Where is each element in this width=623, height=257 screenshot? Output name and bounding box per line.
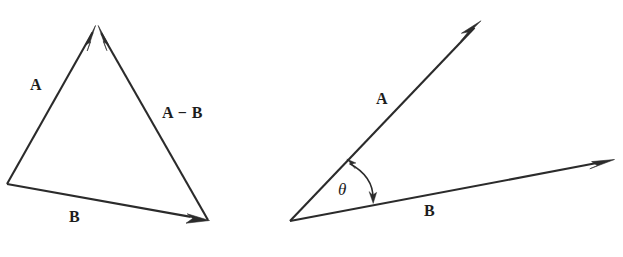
left-triangle-group xyxy=(7,26,210,224)
vector-a-minus-b-arrowhead xyxy=(98,26,109,51)
theta-angle-arc xyxy=(347,159,377,204)
label-vector-a-right: A xyxy=(376,91,388,107)
vector-a-minus-b-shaft xyxy=(101,33,208,220)
vector-b-left-shaft xyxy=(7,184,191,217)
label-vector-a-left: A xyxy=(30,77,42,93)
vector-a-minus-b xyxy=(98,26,208,221)
label-vector-b-left: B xyxy=(69,209,80,225)
vector-diagram-figure: A A − B B A B θ xyxy=(0,0,623,257)
diagram-canvas xyxy=(0,0,623,257)
vector-a-right-arrowhead xyxy=(461,21,481,41)
label-theta: θ xyxy=(338,181,346,198)
vector-a-left-shaft xyxy=(7,33,93,185)
label-vector-a-minus-b: A − B xyxy=(162,105,203,121)
vector-a-left xyxy=(7,26,96,185)
vector-b-left xyxy=(7,184,210,223)
vector-a-left-arrowhead xyxy=(85,26,95,52)
label-vector-b-right: B xyxy=(424,203,435,219)
